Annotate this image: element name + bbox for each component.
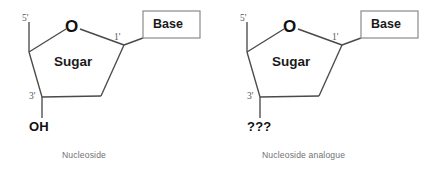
ring-bond-o-c4 <box>29 29 66 52</box>
nucleoside-diagram: 5' O 1' 3' Sugar Base OH Nucleoside <box>0 0 219 175</box>
ring-bond-o-c4 <box>247 29 284 52</box>
c5-prime-label: 5' <box>240 14 246 24</box>
c1-prime-label: 1' <box>332 33 338 43</box>
base-label: Base <box>371 18 401 31</box>
figure-canvas: 5' O 1' 3' Sugar Base OH Nucleoside 5' O… <box>0 0 438 175</box>
c3-prime-label: 3' <box>29 92 35 102</box>
nucleoside-structure-svg <box>0 0 219 175</box>
panel-caption: Nucleoside <box>62 151 106 160</box>
ring-bond-c2-c3 <box>42 96 101 97</box>
c3-prime-label: 3' <box>247 92 253 102</box>
ring-oxygen-label: O <box>283 18 296 35</box>
nucleoside-analogue-diagram: 5' O 1' 3' Sugar Base ??? Nucleoside ana… <box>218 0 437 175</box>
sugar-label: Sugar <box>272 55 310 69</box>
panel-caption: Nucleoside analogue <box>262 151 345 160</box>
sugar-label: Sugar <box>54 55 92 69</box>
c5-prime-label: 5' <box>22 14 28 24</box>
ring-bond-c1-c2 <box>101 45 124 96</box>
glycosidic-bond <box>124 38 143 45</box>
substituent-label: OH <box>29 120 49 133</box>
c1-prime-label: 1' <box>114 33 120 43</box>
ring-bond-c2-c3 <box>260 96 319 97</box>
ring-oxygen-label: O <box>65 18 78 35</box>
substituent-label: ??? <box>247 120 271 133</box>
base-label: Base <box>153 18 183 31</box>
nucleoside-analogue-structure-svg <box>218 0 437 175</box>
glycosidic-bond <box>342 38 361 45</box>
ring-bond-c1-c2 <box>319 45 342 96</box>
